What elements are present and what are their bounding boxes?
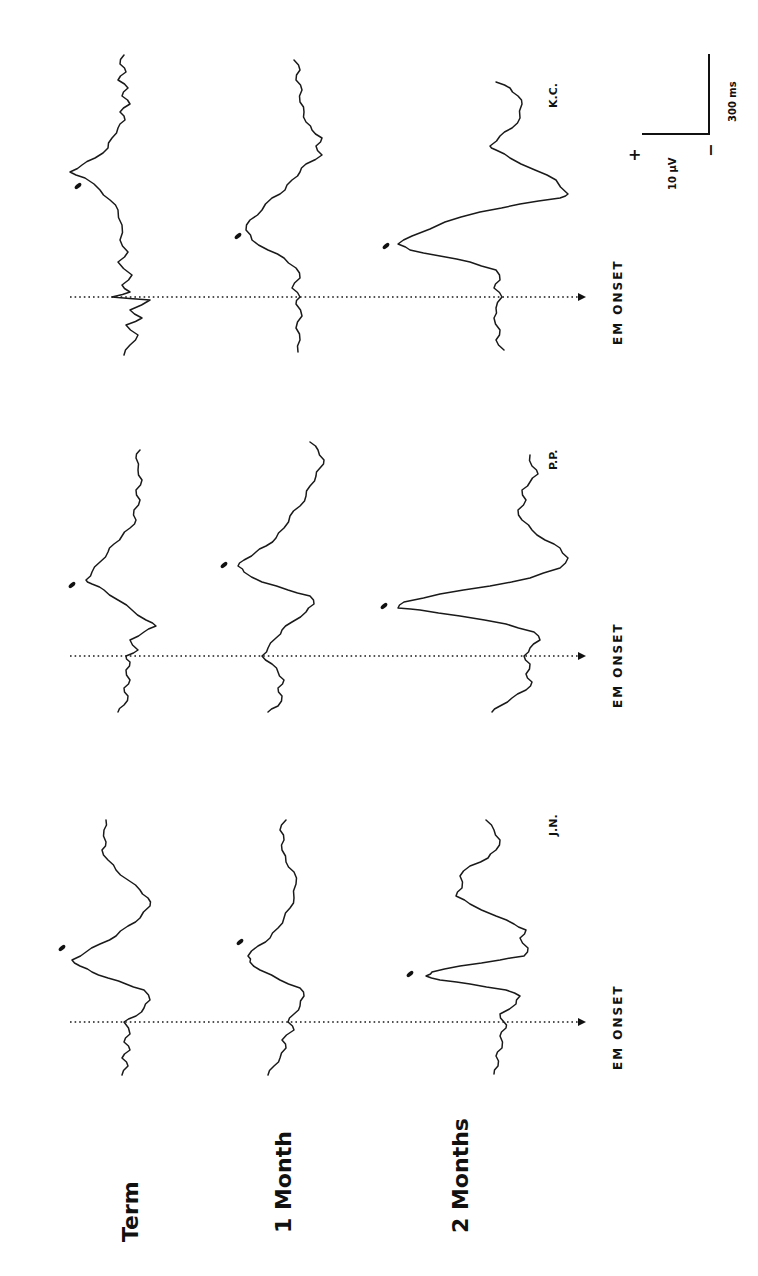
erp-figure: Term 1 Month 2 Months EM ONSET EM ONSET … <box>0 0 758 1276</box>
scale-plus-sign: + <box>628 145 641 164</box>
scale-minus-sign: − <box>701 144 720 157</box>
scale-bar: + − 10 µV 300 ms <box>628 54 738 190</box>
waveform-pp-term <box>86 450 156 712</box>
waveform-jn-2-months <box>426 820 528 1074</box>
peak-marker-icon-pp-term <box>68 581 77 589</box>
peak-marker-icon-jn-term <box>58 944 67 952</box>
peak-marker-icon-pp-2-months <box>380 602 389 610</box>
subject-label-pp: P.P. <box>547 450 560 470</box>
waveform-jn-1-month <box>248 820 304 1075</box>
waveform-traces <box>70 55 568 1075</box>
peak-marker-icon-kc-1-month <box>234 232 243 240</box>
subject-label-jn: J.N. <box>547 814 560 837</box>
row-label-term: Term <box>118 1181 143 1242</box>
waveform-pp-2-months <box>398 455 568 712</box>
peak-marker-icon-jn-2-months <box>406 970 415 978</box>
waveform-jn-term <box>72 820 151 1075</box>
peak-marker-icon-pp-1-month <box>220 561 229 569</box>
waveform-pp-1-month <box>238 442 324 712</box>
arrow-icon-kc <box>578 293 586 301</box>
em-onset-label-kc: EM ONSET <box>611 259 625 345</box>
subject-label-kc: K.C. <box>547 83 560 108</box>
scale-time-label: 300 ms <box>727 81 738 122</box>
em-onset-lines <box>70 293 586 1026</box>
arrow-icon-pp <box>578 652 586 660</box>
em-onset-label-jn: EM ONSET <box>611 984 625 1070</box>
waveform-kc-term <box>70 55 150 355</box>
peak-marker-icon-jn-1-month <box>236 938 245 946</box>
row-label-2-months: 2 Months <box>448 1118 473 1233</box>
peak-marker-icon-kc-2-months <box>382 242 391 250</box>
row-label-1-month: 1 Month <box>271 1131 296 1233</box>
peak-markers <box>58 182 415 978</box>
waveform-kc-2-months <box>398 82 568 350</box>
em-onset-label-pp: EM ONSET <box>611 622 625 708</box>
scale-amplitude-label: 10 µV <box>667 157 678 190</box>
waveform-kc-1-month <box>246 60 322 352</box>
peak-marker-icon-kc-term <box>74 182 83 190</box>
arrow-icon-jn <box>578 1018 586 1026</box>
